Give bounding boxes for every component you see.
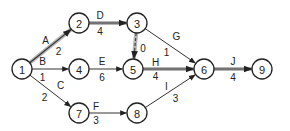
node-label: 2 <box>76 18 82 30</box>
activity-name-label: E <box>99 56 106 67</box>
node-1: 1 <box>12 59 32 79</box>
activity-duration-label: 4 <box>153 71 159 82</box>
activity-name-label: J <box>231 56 236 67</box>
activity-a <box>30 30 71 63</box>
activity-name-label: F <box>93 101 99 112</box>
node-6: 6 <box>194 59 214 79</box>
activity-duration-label: 6 <box>99 72 105 83</box>
activity-name-label: G <box>173 31 181 42</box>
activity-duration-label: 4 <box>230 72 236 83</box>
activity-duration-label: 2 <box>42 92 48 103</box>
activity-c <box>30 75 71 106</box>
node-label: 7 <box>76 108 82 120</box>
node-8: 8 <box>127 103 147 123</box>
node-label: 1 <box>19 64 25 76</box>
activity-name-label: H <box>152 57 159 68</box>
node-label: 3 <box>134 18 140 30</box>
activity-duration-label: 3 <box>93 115 99 126</box>
dummy-duration-label: 0 <box>140 43 146 54</box>
activity-arrow <box>30 30 71 63</box>
activity-dummy-3-5 <box>134 33 136 59</box>
node-5: 5 <box>123 59 143 79</box>
activity-name-label: D <box>96 10 103 21</box>
activity-name-label: C <box>57 80 64 91</box>
node-9: 9 <box>252 59 272 79</box>
activity-duration-label: 1 <box>164 47 170 58</box>
activity-duration-label: 3 <box>173 93 179 104</box>
activity-name-label: B <box>39 56 46 67</box>
network-diagram: A2B1C2D4E6F3G10H4I3J4 123456789 <box>0 0 290 131</box>
activity-duration-label: 1 <box>40 72 46 83</box>
node-3: 3 <box>127 13 147 33</box>
node-label: 8 <box>134 108 140 120</box>
activity-name-label: I <box>165 81 168 92</box>
node-7: 7 <box>69 103 89 123</box>
node-label: 6 <box>201 64 207 76</box>
node-2: 2 <box>69 13 89 33</box>
node-label: 4 <box>76 64 82 76</box>
node-label: 5 <box>130 64 136 76</box>
activity-name-label: A <box>42 35 49 46</box>
node-label: 9 <box>259 64 265 76</box>
node-4: 4 <box>69 59 89 79</box>
activity-duration-label: 2 <box>56 46 62 57</box>
activity-duration-label: 4 <box>97 26 103 37</box>
activity-arrow <box>30 75 71 106</box>
